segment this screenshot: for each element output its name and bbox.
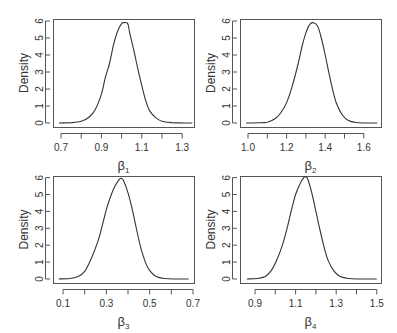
y-tick-label: 2 bbox=[221, 86, 232, 92]
y-tick-label: 5 bbox=[34, 191, 45, 197]
y-axis: 0123456Density bbox=[17, 174, 50, 281]
y-tick-label: 6 bbox=[34, 18, 45, 24]
y-tick-label: 0 bbox=[34, 120, 45, 126]
y-axis: 0123456Density bbox=[204, 18, 237, 126]
y-axis-label: Density bbox=[204, 209, 218, 249]
panel-beta-4: 0123456Density0.91.11.31.5β4 bbox=[204, 174, 384, 330]
y-tick-label: 4 bbox=[221, 52, 232, 58]
x-axis: 0.10.30.50.7β3 bbox=[56, 290, 200, 331]
density-curve bbox=[59, 23, 192, 124]
plot-frame bbox=[241, 177, 382, 284]
y-tick-label: 0 bbox=[221, 120, 232, 126]
x-axis: 0.70.91.11.3β1 bbox=[54, 134, 190, 175]
x-tick-label: 0.7 bbox=[54, 142, 68, 153]
plot-frame bbox=[241, 20, 382, 128]
density-curve bbox=[59, 178, 189, 279]
x-tick-label: 0.9 bbox=[248, 298, 262, 309]
y-axis: 0123456Density bbox=[17, 18, 50, 126]
x-tick-label: 0.7 bbox=[186, 298, 200, 309]
x-axis: 1.01.21.41.6β2 bbox=[241, 134, 371, 175]
y-tick-label: 6 bbox=[221, 174, 232, 180]
x-axis: 0.91.11.31.5β4 bbox=[248, 290, 384, 331]
x-axis-label: β4 bbox=[305, 314, 317, 331]
y-tick-label: 3 bbox=[221, 225, 232, 231]
x-tick-label: 0.3 bbox=[99, 298, 113, 309]
x-tick-label: 1.3 bbox=[175, 142, 189, 153]
panel-beta-3: 0123456Density0.10.30.50.7β3 bbox=[17, 174, 200, 330]
y-axis: 0123456Density bbox=[204, 174, 237, 281]
panel-beta-1: 0123456Density0.70.91.11.3β1 bbox=[17, 18, 194, 175]
y-tick-label: 3 bbox=[221, 69, 232, 75]
y-tick-label: 6 bbox=[221, 18, 232, 24]
plot-frame bbox=[54, 20, 195, 128]
x-tick-label: 0.1 bbox=[56, 298, 70, 309]
y-tick-label: 4 bbox=[34, 52, 45, 58]
y-tick-label: 0 bbox=[221, 276, 232, 282]
x-tick-label: 1.4 bbox=[318, 142, 332, 153]
y-tick-label: 5 bbox=[221, 191, 232, 197]
y-tick-label: 2 bbox=[34, 86, 45, 92]
y-tick-label: 5 bbox=[34, 35, 45, 41]
y-tick-label: 6 bbox=[34, 174, 45, 180]
y-tick-label: 4 bbox=[34, 208, 45, 214]
y-axis-label: Density bbox=[17, 53, 31, 93]
y-tick-label: 1 bbox=[221, 259, 232, 265]
y-axis-label: Density bbox=[204, 53, 218, 93]
y-tick-label: 2 bbox=[34, 242, 45, 248]
panel-beta-2: 0123456Density1.01.21.41.6β2 bbox=[204, 18, 381, 175]
x-tick-label: 1.3 bbox=[329, 298, 343, 309]
x-tick-label: 1.1 bbox=[135, 142, 149, 153]
density-curve bbox=[246, 23, 377, 123]
x-axis-label: β3 bbox=[118, 314, 130, 331]
y-tick-label: 5 bbox=[221, 35, 232, 41]
x-tick-label: 1.5 bbox=[370, 298, 384, 309]
y-tick-label: 0 bbox=[34, 276, 45, 282]
x-tick-label: 1.6 bbox=[357, 142, 371, 153]
y-tick-label: 3 bbox=[34, 225, 45, 231]
x-tick-label: 1.0 bbox=[241, 142, 255, 153]
x-tick-label: 0.5 bbox=[143, 298, 157, 309]
y-tick-label: 1 bbox=[221, 103, 232, 109]
y-tick-label: 4 bbox=[221, 208, 232, 214]
x-axis-label: β2 bbox=[305, 158, 317, 175]
x-tick-label: 1.2 bbox=[280, 142, 294, 153]
y-tick-label: 2 bbox=[221, 242, 232, 248]
density-curve bbox=[247, 177, 377, 279]
y-axis-label: Density bbox=[17, 209, 31, 249]
y-tick-label: 1 bbox=[34, 103, 45, 109]
x-axis-label: β1 bbox=[118, 158, 130, 175]
y-tick-label: 3 bbox=[34, 69, 45, 75]
x-tick-label: 1.1 bbox=[289, 298, 303, 309]
plot-frame bbox=[54, 177, 195, 284]
x-tick-label: 0.9 bbox=[94, 142, 108, 153]
y-tick-label: 1 bbox=[34, 259, 45, 265]
density-plot-grid: 0123456Density0.70.91.11.3β1 0123456Dens… bbox=[0, 0, 397, 333]
